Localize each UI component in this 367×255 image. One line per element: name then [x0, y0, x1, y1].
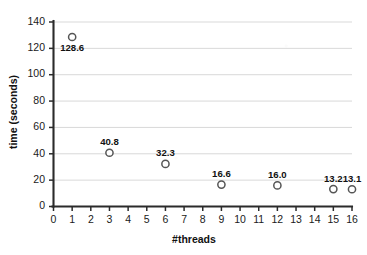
- x-tick-label-2: 2: [88, 213, 94, 225]
- y-tick-label-40: 40: [33, 147, 45, 159]
- x-tick-label-7: 7: [181, 213, 187, 225]
- x-tick-label-6: 6: [163, 213, 169, 225]
- y-axis-title: time (seconds): [7, 75, 19, 149]
- data-point-1: [69, 33, 76, 40]
- data-label-15: 13.2: [324, 173, 343, 184]
- data-point-12: [274, 182, 281, 189]
- x-tick-label-15: 15: [327, 213, 339, 225]
- data-point-16: [348, 186, 355, 193]
- x-tick-label-13: 13: [290, 213, 302, 225]
- data-point-3: [106, 149, 113, 156]
- x-tick-label-9: 9: [218, 213, 224, 225]
- x-tick-label-16: 16: [346, 213, 358, 225]
- data-point-9: [218, 181, 225, 188]
- x-tick-label-10: 10: [234, 213, 246, 225]
- data-label-6: 32.3: [156, 147, 175, 158]
- x-tick-label-5: 5: [144, 213, 150, 225]
- x-tick-label-3: 3: [107, 213, 113, 225]
- y-tick-label-0: 0: [39, 199, 45, 211]
- y-tick-label-120: 120: [27, 41, 45, 53]
- chart-canvas: 012345678910111213141516 020406080100120…: [0, 0, 367, 255]
- y-tick-label-60: 60: [33, 120, 45, 132]
- data-point-15: [330, 186, 337, 193]
- x-tick-label-12: 12: [272, 213, 284, 225]
- data-label-12: 16.0: [268, 169, 287, 180]
- x-tick-label-4: 4: [125, 213, 131, 225]
- scatter-chart: 012345678910111213141516 020406080100120…: [0, 0, 367, 255]
- x-tick-label-1: 1: [69, 213, 75, 225]
- y-tick-label-100: 100: [27, 67, 45, 79]
- x-tick-label-11: 11: [253, 213, 264, 225]
- x-tick-label-14: 14: [309, 213, 321, 225]
- y-tick-label-20: 20: [33, 173, 45, 185]
- x-tick-label-8: 8: [200, 213, 206, 225]
- x-tick-label-0: 0: [51, 213, 57, 225]
- y-tick-label-140: 140: [27, 15, 45, 27]
- data-point-6: [162, 160, 169, 167]
- data-label-3: 40.8: [100, 136, 119, 147]
- x-axis-title: #threads: [172, 233, 216, 245]
- data-label-1: 128.6: [60, 42, 84, 53]
- y-tick-label-80: 80: [33, 94, 45, 106]
- data-label-16: 13.1: [343, 173, 362, 184]
- data-label-9: 16.6: [212, 168, 231, 179]
